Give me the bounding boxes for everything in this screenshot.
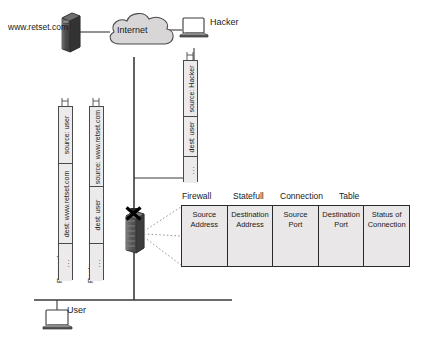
packet-hacker: source: Hackerdest: user... xyxy=(183,60,198,182)
table-row xyxy=(184,238,225,241)
user-label: User xyxy=(67,306,86,315)
table-row xyxy=(321,238,362,241)
packet-request: source: userdest: www.retset.com... xyxy=(58,106,73,280)
hacker-laptop-icon xyxy=(180,18,208,37)
table-header-line: Destination xyxy=(322,210,360,219)
network-diagram: www.retset.com Internet Hacker User Requ… xyxy=(0,0,426,337)
packet-field-hacker-2: ... xyxy=(184,157,197,183)
table-row xyxy=(275,242,316,245)
packet-field-label: dest: www.retset.com xyxy=(62,171,69,238)
table-title-word-0: Firewall xyxy=(182,192,211,201)
packet-field-request-2: ... xyxy=(59,244,72,281)
table-row xyxy=(275,233,316,236)
table-column-header: SourceAddress xyxy=(182,206,227,232)
table-row xyxy=(275,238,316,241)
table-header-line: Source xyxy=(284,210,308,219)
table-cell-placeholder xyxy=(319,232,364,266)
packet-field-label: source: Hacker xyxy=(187,65,194,112)
packet-field-label: dest: user xyxy=(187,121,194,152)
table-column-2: SourcePort xyxy=(273,206,319,266)
table-column-0: SourceAddress xyxy=(182,206,228,266)
table-column-1: DestinationAddress xyxy=(228,206,274,266)
table-column-3: DestinationPort xyxy=(319,206,365,266)
table-row xyxy=(230,238,271,241)
table-row xyxy=(366,242,407,245)
packet-field-reply-2: ... xyxy=(90,244,103,281)
table-cell-placeholder xyxy=(182,232,227,266)
table-header-line: Port xyxy=(289,220,303,229)
table-row xyxy=(184,233,225,236)
table-column-header: DestinationAddress xyxy=(228,206,273,232)
packet-field-label: ... xyxy=(62,258,69,267)
table-row xyxy=(184,242,225,245)
table-header-line: Port xyxy=(334,220,348,229)
table-header-line: Address xyxy=(236,220,264,229)
packet-field-reply-0: source: www.retset.com xyxy=(90,107,103,187)
table-title-word-3: Table xyxy=(339,192,359,201)
table-row xyxy=(321,233,362,236)
table-row xyxy=(230,242,271,245)
packet-field-hacker-1: dest: user xyxy=(184,117,197,157)
table-row xyxy=(230,247,271,250)
table-cell-placeholder xyxy=(228,232,273,266)
packet-field-request-0: source: user xyxy=(59,107,72,164)
table-header-line: Connection xyxy=(368,220,406,229)
internet-label: Internet xyxy=(117,26,148,35)
web-server-icon xyxy=(62,13,80,52)
table-header-line: Status of xyxy=(372,210,402,219)
packet-field-label: ... xyxy=(187,166,194,175)
web-server-label: www.retset.com xyxy=(8,23,68,32)
table-row xyxy=(184,247,225,250)
table-header-line: Address xyxy=(191,220,219,229)
packet-field-label: source: user xyxy=(62,116,69,155)
table-header-line: Source xyxy=(192,210,216,219)
packet-field-hacker-0: source: Hacker xyxy=(184,61,197,117)
packet-reply: source: www.retset.comdest: user... xyxy=(89,106,104,280)
table-row xyxy=(366,238,407,241)
packet-field-label: ... xyxy=(93,258,100,267)
packet-stubs xyxy=(62,52,193,106)
firewall-state-table: SourceAddressDestinationAddressSourcePor… xyxy=(181,205,410,267)
table-row xyxy=(321,247,362,250)
hacker-label: Hacker xyxy=(210,18,239,27)
table-header-line: Destination xyxy=(231,210,269,219)
table-row xyxy=(321,242,362,245)
table-column-4: Status ofConnection xyxy=(364,206,409,266)
callout-lines xyxy=(144,207,181,265)
packet-field-request-1: dest: www.retset.com xyxy=(59,164,72,244)
packet-field-reply-1: dest: user xyxy=(90,187,103,244)
table-cell-placeholder xyxy=(273,232,318,266)
table-row xyxy=(366,247,407,250)
table-row xyxy=(275,247,316,250)
table-row xyxy=(230,233,271,236)
packet-field-label: dest: user xyxy=(93,200,100,231)
table-title-word-1: Statefull xyxy=(233,192,264,201)
table-column-header: Status ofConnection xyxy=(364,206,409,232)
packet-field-label: source: www.retset.com xyxy=(93,109,100,183)
table-title-word-2: Connection xyxy=(280,192,323,201)
table-column-header: DestinationPort xyxy=(319,206,364,232)
table-column-header: SourcePort xyxy=(273,206,318,232)
table-cell-placeholder xyxy=(364,232,409,266)
table-row xyxy=(366,233,407,236)
